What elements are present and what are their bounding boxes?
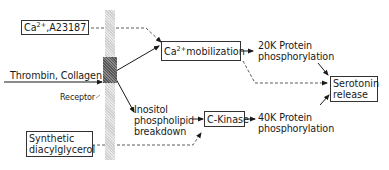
c-kinase-label: C-Kinase — [207, 114, 249, 125]
20k-phosphorylation-label: 20K Protein phosphorylation — [258, 40, 334, 62]
cell-membrane — [105, 10, 115, 160]
ca-mobilization-box: Ca2+mobilization — [161, 41, 241, 61]
inositol-line1: Inositol — [134, 104, 194, 115]
receptor-leader-line — [96, 95, 100, 98]
inositol-line2: phospholipid — [134, 115, 194, 126]
receptor-label: Receptor — [60, 92, 95, 103]
inositol-line3: breakdown — [134, 126, 194, 137]
c-kinase-box: C-Kinase — [204, 111, 245, 127]
serotonin-release-box: Serotonin release — [330, 76, 378, 102]
ca-mob-prefix: Ca — [164, 46, 177, 57]
ca-mob-suffix: mobilization — [186, 46, 245, 57]
receptor-block — [103, 57, 117, 83]
40k-line2: phosphorylation — [258, 123, 334, 134]
receptor-to-inositol-arrow — [116, 79, 134, 112]
20k-to-serotonin-arrow — [318, 63, 328, 75]
ionophore-prefix: Ca — [24, 22, 37, 33]
inositol-label: Inositol phospholipid breakdown — [134, 104, 194, 137]
ionophore-to-ca-arrow — [86, 28, 161, 42]
ionophore-box: Ca2+,A23187 — [21, 20, 89, 35]
20k-line1: 20K Protein — [258, 40, 334, 51]
synthetic-dag-box: Synthetic diacylglycerol — [26, 131, 93, 157]
serotonin-line1: Serotonin — [333, 78, 375, 89]
40k-line1: 40K Protein — [258, 112, 334, 123]
synthetic-dag-line2: diacylglycerol — [29, 144, 90, 155]
40k-phosphorylation-label: 40K Protein phosphorylation — [258, 112, 334, 134]
agonists-label: Thrombin, Collagen — [10, 70, 102, 81]
ionophore-suffix: ,A23187 — [46, 22, 86, 33]
20k-line2: phosphorylation — [258, 51, 334, 62]
synthetic-dag-line1: Synthetic — [29, 133, 90, 144]
40k-to-serotonin-arrow — [320, 95, 329, 105]
ca-mob-sup: 2+ — [177, 45, 187, 53]
ionophore-sup: 2+ — [37, 21, 47, 29]
serotonin-line2: release — [333, 89, 375, 100]
receptor-to-ca-arrow — [116, 46, 159, 71]
ca-to-serotonin-arrow — [243, 61, 327, 83]
